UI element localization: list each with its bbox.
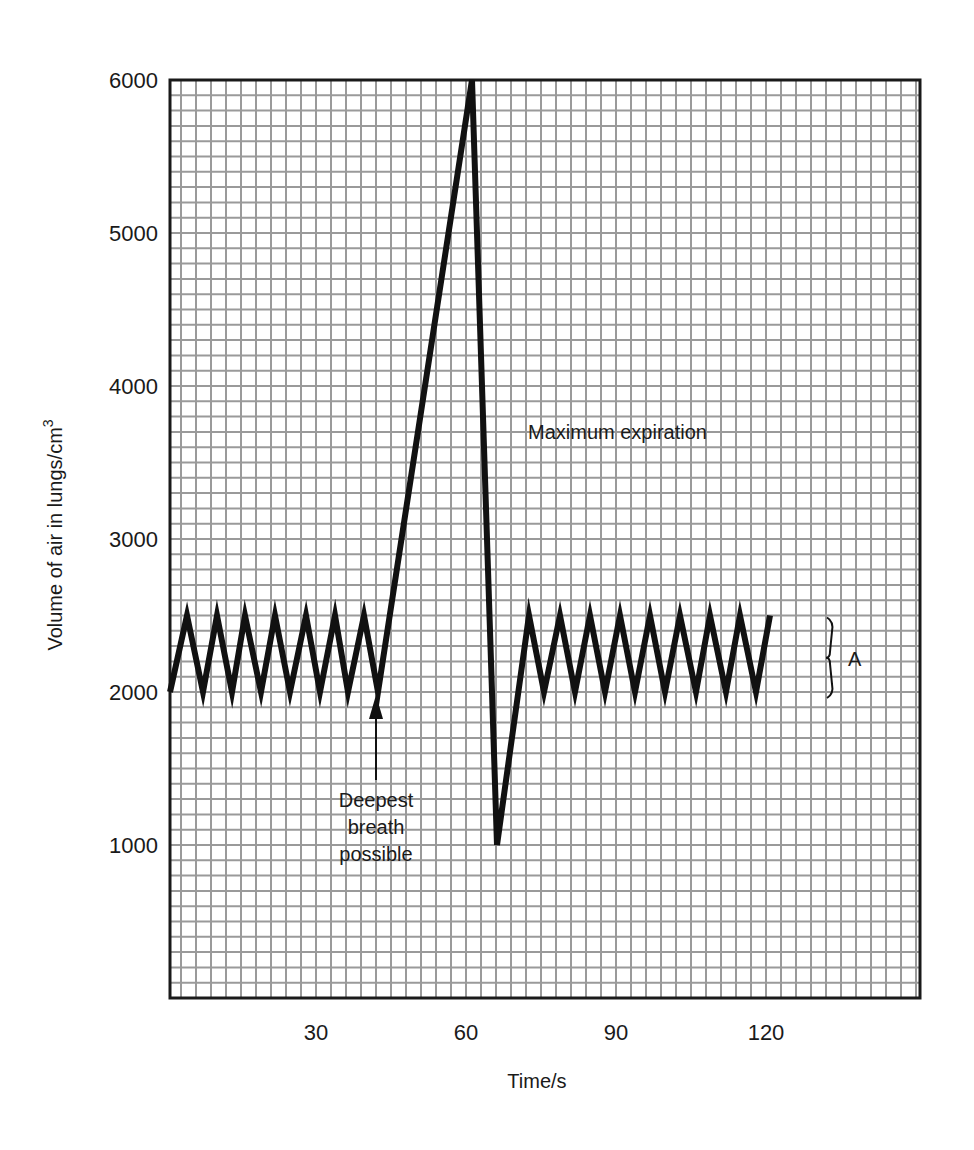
x-tick-label: 120: [748, 1020, 785, 1045]
grid: [170, 80, 920, 998]
x-tick-label: 60: [454, 1020, 478, 1045]
maximum-expiration-label: Maximum expiration: [528, 421, 707, 443]
lung-volume-chart: 100020003000400050006000 306090120 Deepe…: [0, 0, 974, 1150]
brace-A-label: A: [848, 648, 862, 670]
y-axis-ticks: 100020003000400050006000: [109, 68, 158, 858]
x-axis-ticks: 306090120: [304, 1020, 785, 1045]
y-tick-label: 3000: [109, 527, 158, 552]
y-tick-label: 4000: [109, 374, 158, 399]
y-tick-label: 2000: [109, 680, 158, 705]
y-tick-label: 5000: [109, 221, 158, 246]
y-tick-label: 6000: [109, 68, 158, 93]
deepest-breath-label-line1: Deepest: [339, 789, 414, 811]
x-tick-label: 30: [304, 1020, 328, 1045]
y-axis-label: Volume of air in lungs/cm3: [40, 419, 66, 650]
y-tick-label: 1000: [109, 833, 158, 858]
x-axis-label: Time/s: [507, 1070, 566, 1092]
deepest-breath-label-line2: breath: [348, 816, 405, 838]
deepest-breath-label-line3: possible: [339, 843, 412, 865]
x-tick-label: 90: [604, 1020, 628, 1045]
